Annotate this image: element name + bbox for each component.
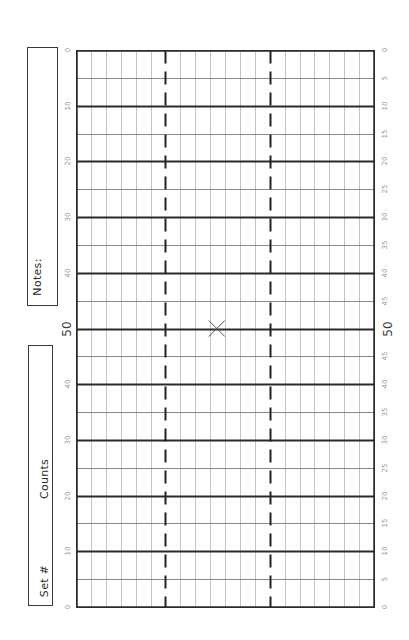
right-scale-label: 50 [382,321,394,336]
right-scale-label: 35 [382,240,389,249]
set-number-label: Set # [39,565,50,597]
right-scale-label: 30 [382,435,389,444]
left-scale-label: 20 [65,157,72,166]
left-scale-label: 40 [65,380,72,389]
left-scale-label: 0 [65,48,72,52]
counts-label: Counts [39,459,50,499]
right-scale-label: 10 [382,101,389,110]
left-scale-label: 10 [65,101,72,110]
right-scale-label: 0 [382,605,389,609]
right-scale-label: 35 [382,408,389,417]
left-scale-label: 0 [65,605,72,609]
right-scale-label: 15 [382,129,389,138]
left-scale-label: 50 [61,321,73,336]
left-scale-label: 20 [65,491,72,500]
right-scale-label: 0 [382,48,389,52]
right-scale-label: 45 [382,296,389,305]
right-scale-label: 15 [382,519,389,528]
notes-label: Notes: [32,258,43,295]
right-scale-label: 25 [382,463,389,472]
left-scale-label: 30 [65,213,72,222]
right-scale-label: 10 [382,547,389,556]
score-grid[interactable] [76,50,375,608]
right-scale-label: 5 [382,577,389,581]
left-scale-label: 30 [65,435,72,444]
right-scale-label: 5 [382,76,389,80]
right-scale-label: 30 [382,213,389,222]
right-scale-label: 20 [382,491,389,500]
right-scale-label: 40 [382,268,389,277]
left-scale-label: 10 [65,547,72,556]
right-scale-label: 45 [382,352,389,361]
left-scale-label: 40 [65,268,72,277]
right-scale-label: 20 [382,157,389,166]
right-scale-label: 25 [382,185,389,194]
right-scale-label: 40 [382,380,389,389]
